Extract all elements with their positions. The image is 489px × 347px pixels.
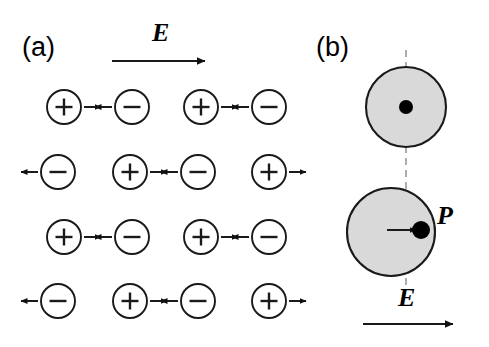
- nucleus-dot: [399, 100, 413, 114]
- charge-row: [21, 284, 306, 318]
- charge-positive: [252, 284, 306, 318]
- charge-row: [47, 220, 286, 254]
- charge-negative: [232, 90, 286, 124]
- physics-figure-dielectric-polarization: (a) (b) E E P: [0, 0, 489, 347]
- polarized-atom: [347, 188, 435, 276]
- charge-negative: [21, 284, 75, 318]
- charge-positive: [113, 284, 167, 318]
- charge-negative: [21, 155, 75, 189]
- charge-negative: [161, 155, 215, 189]
- panel-a-group: [21, 61, 306, 318]
- charge-positive: [184, 90, 238, 124]
- unpolarized-atom: [366, 67, 446, 147]
- charge-positive: [47, 220, 101, 254]
- charge-row: [47, 90, 286, 124]
- charge-negative: [95, 90, 149, 124]
- charge-row: [21, 155, 306, 189]
- charge-negative: [232, 220, 286, 254]
- charge-positive: [252, 155, 306, 189]
- charge-positive: [47, 90, 101, 124]
- figure-canvas: [0, 0, 489, 347]
- panel-b-group: [347, 50, 453, 324]
- charge-negative: [161, 284, 215, 318]
- charge-positive: [184, 220, 238, 254]
- charge-positive: [113, 155, 167, 189]
- nucleus-dot: [412, 221, 430, 239]
- charge-negative: [95, 220, 149, 254]
